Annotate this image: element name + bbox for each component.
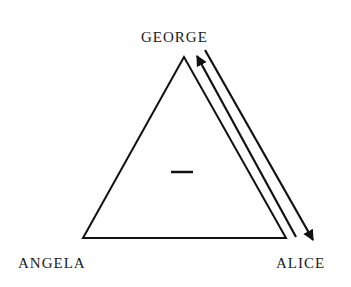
arrow-george-to-alice bbox=[205, 50, 313, 240]
triangle bbox=[83, 57, 286, 238]
arrow-alice-to-george bbox=[197, 56, 296, 237]
node-label-george: GEORGE bbox=[141, 29, 208, 46]
node-label-alice: ALICE bbox=[276, 255, 325, 272]
node-label-angela: ANGELA bbox=[18, 255, 86, 272]
